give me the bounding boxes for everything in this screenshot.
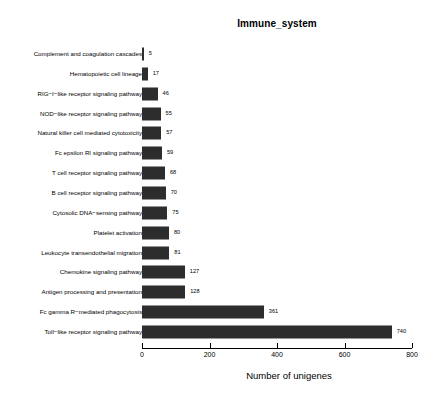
- bar-row: Chemokine signaling pathway127: [0, 263, 444, 283]
- x-tick-label: 800: [406, 351, 418, 358]
- x-axis: Number of unigenes 0200400600800: [0, 342, 444, 397]
- chart-title: Immune_system: [0, 18, 444, 29]
- category-label: RIG−I−like receptor signaling pathway: [37, 91, 142, 97]
- bar: [142, 67, 148, 80]
- bar-chart: Immune_system Complement and coagulation…: [0, 0, 444, 397]
- category-label: Antigen processing and presentation: [42, 289, 142, 295]
- x-tick-label: 200: [204, 351, 216, 358]
- bar-row: Platelet activation80: [0, 223, 444, 243]
- bar-value-label: 361: [269, 309, 278, 315]
- bar: [142, 47, 144, 60]
- category-label: B cell receptor signaling pathway: [52, 190, 142, 196]
- category-label: Complement and coagulation cascades: [34, 51, 142, 57]
- category-label: Toll−like receptor signaling pathway: [44, 329, 142, 335]
- bar-value-label: 128: [190, 290, 199, 296]
- bar: [142, 326, 392, 339]
- bar-row: Leukocyte transendothelial migration81: [0, 243, 444, 263]
- bar-row: Natural killer cell mediated cytotoxicit…: [0, 123, 444, 143]
- x-tick-label: 400: [271, 351, 283, 358]
- bar: [142, 107, 161, 120]
- bar-value-label: 740: [397, 329, 406, 335]
- x-tick-mark: [142, 343, 143, 348]
- bar-row: Cytosolic DNA−sensing pathway75: [0, 203, 444, 223]
- bar: [142, 87, 158, 100]
- bar-row: B cell receptor signaling pathway70: [0, 183, 444, 203]
- x-tick-mark: [277, 343, 278, 348]
- category-label: Chemokine signaling pathway: [60, 269, 142, 275]
- bar-value-label: 75: [172, 210, 178, 216]
- category-label: Leukocyte transendothelial migration: [41, 249, 142, 255]
- bar: [142, 266, 185, 279]
- bar-row: Antigen processing and presentation128: [0, 282, 444, 302]
- bar-row: Fc epsilon RI signaling pathway59: [0, 143, 444, 163]
- x-tick-mark: [412, 343, 413, 348]
- x-tick-label: 0: [140, 351, 144, 358]
- x-axis-line: [142, 348, 412, 349]
- bar-value-label: 17: [153, 71, 159, 77]
- category-label: NOD−like receptor signaling pathway: [40, 110, 142, 116]
- plot-area: Complement and coagulation cascades5Hema…: [0, 44, 444, 342]
- bar-row: Toll−like receptor signaling pathway740: [0, 322, 444, 342]
- bar-value-label: 68: [170, 170, 176, 176]
- bar-value-label: 46: [163, 91, 169, 97]
- bar: [142, 127, 161, 140]
- x-tick-label: 600: [339, 351, 351, 358]
- bar-value-label: 81: [174, 250, 180, 256]
- bar: [142, 147, 162, 160]
- x-axis-title: Number of unigenes: [0, 370, 444, 381]
- category-label: Fc gamma R−mediated phagocytosis: [40, 309, 142, 315]
- bar-row: T cell receptor signaling pathway68: [0, 163, 444, 183]
- bar-row: Fc gamma R−mediated phagocytosis361: [0, 302, 444, 322]
- bar-row: NOD−like receptor signaling pathway55: [0, 104, 444, 124]
- bar: [142, 206, 167, 219]
- category-label: Cytosolic DNA−sensing pathway: [52, 210, 142, 216]
- bar-value-label: 5: [149, 51, 152, 57]
- bar-value-label: 57: [166, 131, 172, 137]
- bar: [142, 246, 169, 259]
- bar: [142, 167, 165, 180]
- category-label: Platelet activation: [94, 230, 143, 236]
- bar-value-label: 55: [166, 111, 172, 117]
- category-label: Fc epsilon RI signaling pathway: [55, 150, 142, 156]
- bar: [142, 286, 185, 299]
- bar: [142, 306, 264, 319]
- bar-value-label: 70: [171, 190, 177, 196]
- bar-value-label: 127: [190, 270, 199, 276]
- bar-value-label: 80: [174, 230, 180, 236]
- x-tick-mark: [210, 343, 211, 348]
- bar: [142, 226, 169, 239]
- x-tick-mark: [345, 343, 346, 348]
- category-label: Natural killer cell mediated cytotoxicit…: [37, 130, 142, 136]
- bar-row: RIG−I−like receptor signaling pathway46: [0, 84, 444, 104]
- bar: [142, 186, 166, 199]
- bar-row: Hematopoietic cell lineage17: [0, 64, 444, 84]
- bar-value-label: 59: [167, 150, 173, 156]
- category-label: Hematopoietic cell lineage: [70, 71, 142, 77]
- category-label: T cell receptor signaling pathway: [52, 170, 142, 176]
- bar-row: Complement and coagulation cascades5: [0, 44, 444, 64]
